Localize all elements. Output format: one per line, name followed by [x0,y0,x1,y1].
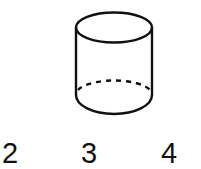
cylinder-bottom-front-edge [76,95,152,114]
answer-option-4[interactable]: 4 [161,139,177,168]
answer-option-2[interactable]: 2 [2,139,18,168]
cylinder-top-face [76,13,152,43]
cylinder-bottom-hidden-edge [78,80,150,90]
answer-option-3[interactable]: 3 [81,139,97,168]
cylinder-figure [0,0,201,130]
